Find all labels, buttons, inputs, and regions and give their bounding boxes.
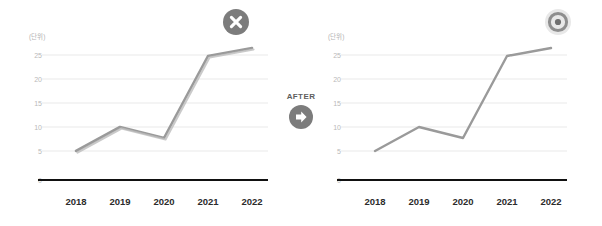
xtick-label: 2019 xyxy=(399,196,439,207)
before-after-comparison: (단위) 25 20 15 10 5 0 xyxy=(0,0,602,226)
xtick-label: 2020 xyxy=(144,196,184,207)
line-chart-before xyxy=(0,0,301,226)
xtick-label: 2022 xyxy=(232,196,272,207)
plot-area-after: 25 20 15 10 5 0 2018 2019 2020 2021 xyxy=(301,0,602,226)
xtick-label: 2019 xyxy=(100,196,140,207)
data-series xyxy=(76,48,254,153)
xtick-label: 2020 xyxy=(443,196,483,207)
xtick-label: 2022 xyxy=(531,196,571,207)
data-series xyxy=(375,48,551,151)
xtick-label: 2021 xyxy=(487,196,527,207)
xtick-label: 2021 xyxy=(188,196,228,207)
chart-panel-after: (단위) 25 20 15 10 5 0 2018 2019 xyxy=(301,0,602,226)
xtick-label: 2018 xyxy=(56,196,96,207)
arrow-right-icon xyxy=(289,105,313,129)
plot-area-before: 25 20 15 10 5 0 xyxy=(0,0,301,226)
xtick-label: 2018 xyxy=(355,196,395,207)
transition-indicator: AFTER xyxy=(279,92,323,129)
chart-panel-before: (단위) 25 20 15 10 5 0 xyxy=(0,0,301,226)
after-label: AFTER xyxy=(287,92,316,101)
line-chart-after xyxy=(301,0,602,226)
